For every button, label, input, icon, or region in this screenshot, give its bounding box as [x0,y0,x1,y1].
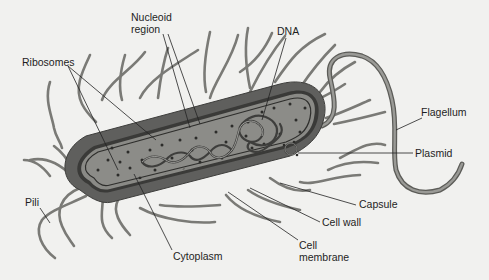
label-cell-wall: Cell wall [322,216,361,228]
label-ribosomes: Ribosomes [22,56,75,68]
leader-capsule [280,183,356,205]
prokaryotic-cell-diagram: Nucleoid region Ribosomes DNA Flagellum … [0,0,489,280]
label-flagellum: Flagellum [421,106,467,118]
leader-flagellum [396,118,422,130]
label-cell-membrane: Cell membrane [299,239,349,263]
cell-illustration [0,0,489,280]
label-cytoplasm: Cytoplasm [173,250,223,262]
label-dna: DNA [277,25,299,37]
label-nucleoid-region: Nucleoid region [131,11,172,35]
label-pili: Pili [25,196,39,208]
label-capsule: Capsule [359,198,398,210]
label-plasmid: Plasmid [415,147,452,159]
